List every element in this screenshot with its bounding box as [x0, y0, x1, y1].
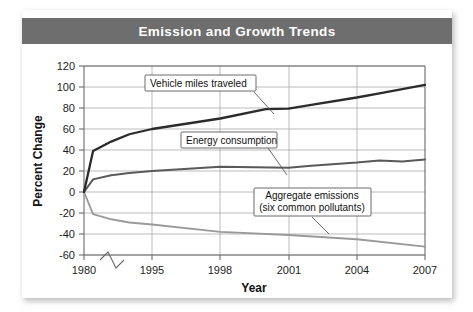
y-tick-neg60: -60 — [59, 249, 75, 261]
chart-title-banner: Emission and Growth Trends — [22, 18, 452, 44]
y-tick-40: 40 — [63, 144, 75, 156]
chart-svg: 120 100 80 60 40 20 0 -20 -40 -60 Percen… — [22, 44, 452, 298]
annotation-vehicle-label: Vehicle miles traveled — [150, 78, 247, 89]
y-tick-80: 80 — [63, 102, 75, 114]
x-axis-title: Year — [241, 281, 267, 295]
vertical-gridlines — [152, 66, 357, 255]
chart-title: Emission and Growth Trends — [138, 24, 335, 39]
x-tick-2004: 2004 — [345, 264, 369, 276]
series-line-energy-consumption — [84, 159, 425, 192]
chart-figure: Emission and Growth Trends — [22, 10, 452, 298]
y-axis-title: Percent Change — [31, 115, 45, 207]
y-tick-0: 0 — [69, 186, 75, 198]
annotation-emissions-label-line2: (six common pollutants) — [259, 202, 365, 213]
y-axis-tick-labels: 120 100 80 60 40 20 0 -20 -40 -60 — [57, 60, 75, 261]
y-axis-ticks — [79, 66, 84, 255]
x-tick-1998: 1998 — [208, 264, 232, 276]
data-series-group — [84, 85, 425, 247]
annotation-energy-label: Energy consumption — [186, 135, 277, 146]
y-tick-100: 100 — [57, 81, 75, 93]
x-axis-ticks — [84, 255, 425, 260]
x-tick-2007: 2007 — [413, 264, 437, 276]
y-tick-neg20: -20 — [59, 207, 75, 219]
annotation-emissions-label-line1: Aggregate emissions — [265, 190, 358, 201]
y-tick-60: 60 — [63, 123, 75, 135]
x-tick-1995: 1995 — [140, 264, 164, 276]
y-tick-neg40: -40 — [59, 228, 75, 240]
x-axis-break-icon — [100, 252, 124, 268]
x-tick-1980: 1980 — [72, 264, 96, 276]
x-axis-tick-labels: 1980 1995 1998 2001 2004 2007 — [72, 264, 437, 276]
annotation-aggregate-emissions: Aggregate emissions (six common pollutan… — [254, 188, 371, 234]
y-tick-120: 120 — [57, 60, 75, 72]
plot-area-container: 120 100 80 60 40 20 0 -20 -40 -60 Percen… — [22, 44, 452, 298]
y-tick-20: 20 — [63, 165, 75, 177]
x-tick-2001: 2001 — [277, 264, 301, 276]
